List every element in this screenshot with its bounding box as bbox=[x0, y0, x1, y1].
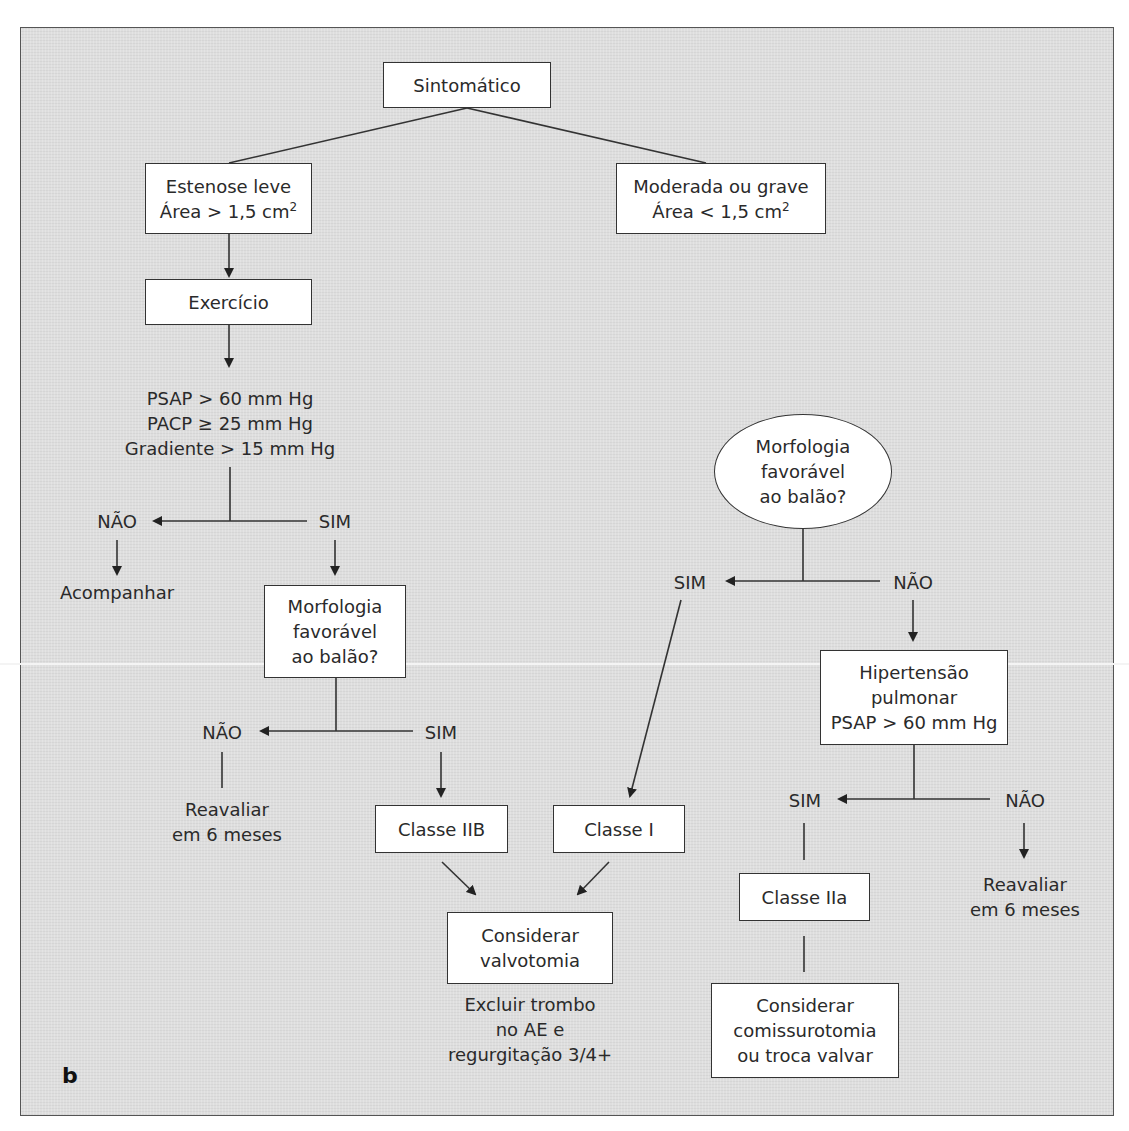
valvotomia-line2: valvotomia bbox=[480, 948, 580, 973]
panel-letter: b bbox=[62, 1063, 78, 1088]
node-morfologia-left: Morfologia favorável ao balão? bbox=[264, 585, 406, 678]
morfologia-right-line2: favorável bbox=[761, 459, 845, 484]
node-considerar-comissurotomia: Considerar comissurotomia ou troca valva… bbox=[711, 983, 899, 1078]
criteria-psap: PSAP > 60 mm Hg bbox=[125, 386, 335, 411]
node-estenose-leve-line2: Área > 1,5 cm2 bbox=[160, 199, 297, 224]
excluir-line2: no AE e bbox=[448, 1017, 612, 1042]
comissurotomia-line2: comissurotomia bbox=[733, 1018, 876, 1043]
node-morfologia-right-decision: Morfologia favorável ao balão? bbox=[714, 414, 892, 529]
classe-i-label: Classe I bbox=[584, 817, 653, 842]
criteria-gradiente: Gradiente > 15 mm Hg bbox=[125, 436, 335, 461]
reavaliar-left-line2: em 6 meses bbox=[172, 822, 282, 847]
excluir-line1: Excluir trombo bbox=[448, 992, 612, 1017]
node-acompanhar: Acompanhar bbox=[60, 580, 174, 605]
node-sintomatico-label: Sintomático bbox=[413, 73, 520, 98]
reavaliar-right-line1: Reavaliar bbox=[970, 872, 1080, 897]
node-exercicio: Exercício bbox=[145, 279, 312, 325]
node-classe-iib: Classe IIB bbox=[375, 805, 508, 853]
node-reavaliar-right: Reavaliar em 6 meses bbox=[970, 872, 1080, 922]
branch-morf-left-no: NÃO bbox=[202, 720, 242, 745]
branch-hipert-yes: SIM bbox=[789, 788, 821, 813]
criteria-text: PSAP > 60 mm Hg PACP ≥ 25 mm Hg Gradient… bbox=[125, 386, 335, 461]
branch-hipert-no: NÃO bbox=[1005, 788, 1045, 813]
node-moderada-grave-line2: Área < 1,5 cm2 bbox=[652, 199, 789, 224]
node-sintomatico: Sintomático bbox=[383, 62, 551, 108]
node-moderada-grave-line1: Moderada ou grave bbox=[633, 174, 808, 199]
hipertensao-line3: PSAP > 60 mm Hg bbox=[831, 710, 998, 735]
comissurotomia-line1: Considerar bbox=[756, 993, 854, 1018]
hipertensao-line1: Hipertensão bbox=[859, 660, 968, 685]
node-classe-iia: Classe IIa bbox=[739, 873, 870, 921]
excluir-line3: regurgitação 3/4+ bbox=[448, 1042, 612, 1067]
branch-morf-left-yes: SIM bbox=[425, 720, 457, 745]
branch-criteria-yes: SIM bbox=[319, 509, 351, 534]
node-considerar-valvotomia: Considerar valvotomia bbox=[447, 912, 613, 984]
branch-morf-right-no: NÃO bbox=[893, 570, 933, 595]
branch-criteria-no: NÃO bbox=[97, 509, 137, 534]
valvotomia-line1: Considerar bbox=[481, 923, 579, 948]
criteria-pacp: PACP ≥ 25 mm Hg bbox=[125, 411, 335, 436]
node-reavaliar-left: Reavaliar em 6 meses bbox=[172, 797, 282, 847]
morfologia-left-line1: Morfologia bbox=[288, 594, 383, 619]
morfologia-right-line1: Morfologia bbox=[756, 434, 851, 459]
morfologia-left-line3: ao balão? bbox=[292, 644, 379, 669]
branch-morf-right-yes: SIM bbox=[674, 570, 706, 595]
reavaliar-left-line1: Reavaliar bbox=[172, 797, 282, 822]
note-excluir-trombo: Excluir trombo no AE e regurgitação 3/4+ bbox=[448, 992, 612, 1067]
comissurotomia-line3: ou troca valvar bbox=[737, 1043, 873, 1068]
node-estenose-leve-line1: Estenose leve bbox=[166, 174, 291, 199]
reavaliar-right-line2: em 6 meses bbox=[970, 897, 1080, 922]
node-hipertensao: Hipertensão pulmonar PSAP > 60 mm Hg bbox=[820, 650, 1008, 745]
node-exercicio-label: Exercício bbox=[188, 290, 268, 315]
classe-iia-label: Classe IIa bbox=[762, 885, 848, 910]
morfologia-left-line2: favorável bbox=[293, 619, 377, 644]
morfologia-right-line3: ao balão? bbox=[760, 484, 847, 509]
classe-iib-label: Classe IIB bbox=[398, 817, 485, 842]
node-classe-i: Classe I bbox=[553, 805, 685, 853]
node-moderada-grave: Moderada ou grave Área < 1,5 cm2 bbox=[616, 163, 826, 234]
node-estenose-leve: Estenose leve Área > 1,5 cm2 bbox=[145, 163, 312, 234]
hipertensao-line2: pulmonar bbox=[871, 685, 957, 710]
